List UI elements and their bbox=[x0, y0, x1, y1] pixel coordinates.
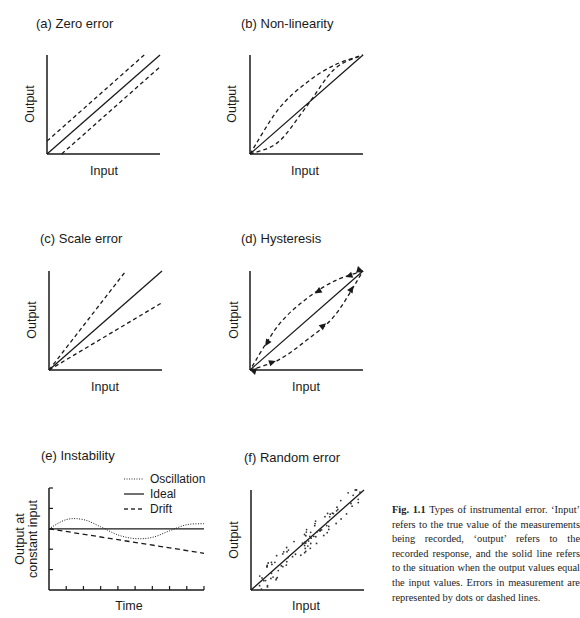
y-axis-label: Output bbox=[227, 301, 241, 339]
data-point bbox=[315, 520, 317, 522]
data-point bbox=[328, 528, 330, 530]
data-point bbox=[274, 561, 276, 563]
plot-area bbox=[47, 55, 160, 154]
plot-area bbox=[49, 271, 162, 370]
data-point bbox=[337, 509, 339, 511]
data-point bbox=[335, 523, 337, 525]
data-point bbox=[351, 505, 353, 507]
data-point bbox=[267, 585, 269, 587]
figure-caption: Fig. 1.1 Types of instrumental error. ‘I… bbox=[392, 503, 580, 605]
y-axis-label: Output bbox=[23, 85, 37, 123]
plot-area bbox=[49, 488, 204, 590]
data-point bbox=[286, 561, 288, 563]
data-point bbox=[340, 500, 342, 502]
data-point bbox=[321, 529, 323, 531]
data-point bbox=[276, 555, 278, 557]
data-point bbox=[259, 585, 261, 587]
panel-title: (e) Instability bbox=[41, 448, 115, 463]
panel-title: (d) Hysteresis bbox=[241, 231, 322, 246]
data-point bbox=[271, 564, 273, 566]
data-point bbox=[324, 516, 326, 518]
x-axis-label: Input bbox=[292, 599, 320, 613]
data-point bbox=[326, 525, 328, 527]
x-axis-label: Input bbox=[292, 380, 320, 394]
data-point bbox=[270, 578, 272, 580]
x-axis-label: Input bbox=[91, 380, 119, 394]
data-point bbox=[314, 525, 316, 527]
data-point bbox=[305, 531, 307, 533]
data-point bbox=[336, 506, 338, 508]
panel-scale-error: (c) Scale error Output Input bbox=[25, 231, 162, 394]
plot-area bbox=[250, 266, 363, 375]
legend: Oscillation Ideal Drift bbox=[124, 472, 205, 516]
data-point bbox=[319, 529, 321, 531]
data-point bbox=[277, 570, 279, 572]
data-point bbox=[340, 518, 342, 520]
data-point bbox=[304, 545, 306, 547]
data-point bbox=[306, 529, 308, 531]
data-point bbox=[326, 532, 328, 534]
legend-label-ideal: Ideal bbox=[150, 487, 176, 501]
data-point bbox=[313, 535, 315, 537]
y-axis-label-line1: Output at bbox=[13, 513, 27, 565]
data-point bbox=[310, 531, 312, 533]
error-line bbox=[49, 303, 162, 370]
y-axis-label-line2: constant input bbox=[26, 500, 40, 578]
data-point bbox=[304, 552, 306, 554]
data-point bbox=[315, 536, 317, 538]
data-point bbox=[285, 564, 287, 566]
data-point bbox=[336, 510, 338, 512]
data-point bbox=[310, 543, 312, 545]
data-point bbox=[295, 553, 297, 555]
arrowhead-icon bbox=[268, 360, 276, 366]
error-line bbox=[62, 67, 160, 154]
plot-area bbox=[250, 55, 363, 154]
data-point bbox=[309, 536, 311, 538]
data-point bbox=[267, 562, 269, 564]
data-point bbox=[283, 551, 285, 553]
data-point bbox=[259, 575, 261, 577]
data-point bbox=[308, 540, 310, 542]
data-point bbox=[307, 545, 309, 547]
data-point bbox=[310, 537, 312, 539]
data-point bbox=[265, 580, 267, 582]
data-point bbox=[327, 521, 329, 523]
legend-label-oscillation: Oscillation bbox=[150, 472, 205, 486]
data-point bbox=[354, 489, 356, 491]
data-point bbox=[328, 526, 330, 528]
panel-non-linearity: (b) Non-linearity Output Input bbox=[225, 16, 363, 178]
ideal-line bbox=[47, 55, 160, 154]
data-point bbox=[327, 512, 329, 514]
data-point bbox=[346, 513, 348, 515]
panel-hysteresis: (d) Hysteresis Output Input bbox=[227, 231, 363, 394]
drift-line bbox=[49, 529, 204, 553]
arrowhead-icon bbox=[346, 272, 354, 278]
y-axis-label: Output bbox=[25, 301, 39, 339]
data-point bbox=[282, 553, 284, 555]
data-point bbox=[271, 572, 273, 574]
data-point bbox=[282, 566, 284, 568]
plot-area bbox=[251, 489, 364, 590]
data-point bbox=[304, 548, 306, 550]
data-point bbox=[350, 503, 352, 505]
data-point bbox=[316, 531, 318, 533]
data-point bbox=[305, 542, 307, 544]
data-point bbox=[352, 494, 354, 496]
data-point bbox=[359, 491, 361, 493]
x-axis-label: Input bbox=[291, 164, 319, 178]
panel-random-error: (f) Random error Output Input bbox=[227, 450, 364, 613]
data-point bbox=[271, 561, 273, 563]
arrowhead-icon bbox=[347, 286, 353, 294]
ideal-line bbox=[251, 490, 364, 590]
data-point bbox=[333, 513, 335, 515]
data-point bbox=[316, 543, 318, 545]
data-point bbox=[357, 498, 359, 500]
ideal-line bbox=[250, 271, 363, 370]
data-point bbox=[275, 579, 277, 581]
data-point bbox=[292, 556, 294, 558]
data-point bbox=[302, 542, 304, 544]
data-point bbox=[357, 502, 359, 504]
error-line bbox=[49, 271, 126, 370]
data-point bbox=[305, 535, 307, 537]
panel-instability: (e) Instability Output at constant input… bbox=[13, 448, 205, 613]
